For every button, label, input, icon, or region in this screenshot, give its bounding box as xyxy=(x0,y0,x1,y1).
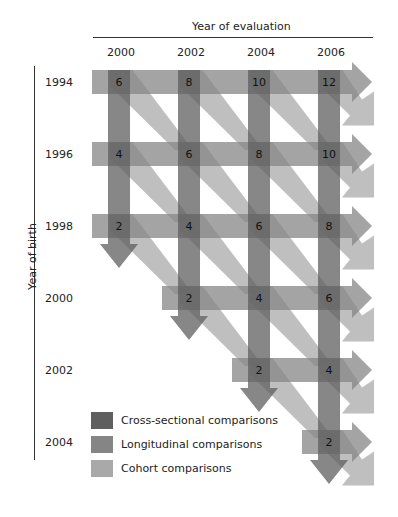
age-label: 6 xyxy=(186,148,193,161)
swatch-cohort xyxy=(91,460,113,477)
age-label: 8 xyxy=(326,220,333,233)
age-label: 4 xyxy=(256,292,263,305)
age-label: 10 xyxy=(252,76,266,89)
legend-label: Longitudinal comparisons xyxy=(121,438,262,451)
legend-label: Cohort comparisons xyxy=(121,462,231,475)
legend-item-longitudinal: Longitudinal comparisons xyxy=(91,432,278,456)
age-label: 6 xyxy=(326,292,333,305)
age-label: 6 xyxy=(116,76,123,89)
age-label: 4 xyxy=(116,148,123,161)
age-label: 8 xyxy=(186,76,193,89)
legend-item-cohort: Cohort comparisons xyxy=(91,456,278,480)
age-label: 2 xyxy=(116,220,123,233)
age-label: 2 xyxy=(186,292,193,305)
swatch-cross-sectional xyxy=(91,412,113,429)
legend-item-cross-sectional: Cross-sectional comparisons xyxy=(91,408,278,432)
legend: Cross-sectional comparisons Longitudinal… xyxy=(91,408,278,480)
legend-label: Cross-sectional comparisons xyxy=(121,414,278,427)
age-label: 10 xyxy=(322,148,336,161)
cohort-sequential-diagram: Year of evaluation Year of birth 2000 20… xyxy=(0,0,398,517)
swatch-longitudinal xyxy=(91,436,113,453)
age-label: 12 xyxy=(322,76,336,89)
age-label: 4 xyxy=(186,220,193,233)
age-label: 6 xyxy=(256,220,263,233)
age-label: 8 xyxy=(256,148,263,161)
age-label: 4 xyxy=(326,364,333,377)
age-label: 2 xyxy=(326,436,333,449)
age-label: 2 xyxy=(256,364,263,377)
